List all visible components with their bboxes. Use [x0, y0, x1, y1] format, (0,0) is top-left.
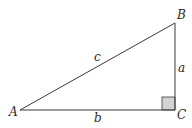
vertex-label-b: B: [176, 8, 186, 22]
diagram-canvas: A B C c b a: [0, 0, 192, 128]
right-triangle-diagram: A B C c b a: [0, 0, 192, 128]
vertex-label-a: A: [8, 105, 18, 119]
right-angle-marker: [162, 97, 175, 110]
side-label-b: b: [94, 111, 102, 125]
side-label-a: a: [178, 61, 185, 75]
vertex-label-c: C: [177, 108, 186, 122]
side-label-c: c: [94, 50, 101, 64]
triangle-outline: [20, 23, 175, 110]
